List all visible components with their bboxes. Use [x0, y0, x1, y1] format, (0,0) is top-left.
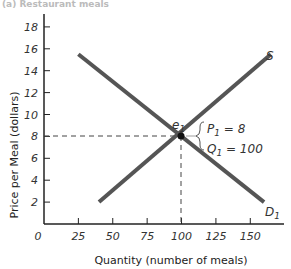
- x-ticks: 0255075100125150: [35, 218, 261, 243]
- supply-label: S: [266, 49, 274, 63]
- svg-text:10: 10: [24, 109, 38, 122]
- svg-text:50: 50: [106, 230, 120, 243]
- svg-text:75: 75: [140, 230, 154, 243]
- y-ticks: 24681012141618: [24, 21, 50, 209]
- x-axis-label: Quantity (number of meals): [94, 254, 247, 267]
- svg-text:25: 25: [71, 230, 85, 243]
- svg-text:16: 16: [24, 43, 38, 56]
- y-axis-label: Price per Meal (dollars): [8, 91, 21, 218]
- svg-text:6: 6: [31, 152, 38, 165]
- svg-text:18: 18: [24, 21, 38, 34]
- svg-text:4: 4: [31, 174, 38, 187]
- price-annotation: P1 = 8: [207, 122, 246, 138]
- chart-caption: (a) Restaurant meals: [2, 0, 109, 9]
- svg-text:125: 125: [205, 230, 226, 243]
- demand-label: D1: [265, 205, 280, 221]
- equilibrium-label: e1: [172, 118, 185, 134]
- quantity-annotation: Q1 = 100: [207, 142, 263, 158]
- svg-text:14: 14: [24, 65, 38, 78]
- brace-icon: [196, 122, 204, 150]
- svg-text:2: 2: [31, 196, 38, 209]
- supply-demand-chart: (a) Restaurant meals 24681012141618 0255…: [0, 0, 291, 269]
- svg-text:100: 100: [171, 230, 192, 243]
- svg-text:8: 8: [31, 130, 38, 143]
- svg-text:12: 12: [24, 87, 38, 100]
- svg-text:0: 0: [35, 230, 42, 243]
- svg-text:150: 150: [240, 230, 261, 243]
